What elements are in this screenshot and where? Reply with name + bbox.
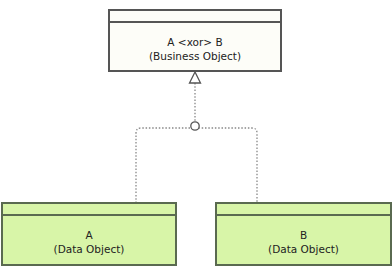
data-object-node-a[interactable]: A (Data Object)	[1, 202, 177, 266]
data-object-node-b[interactable]: B (Data Object)	[215, 202, 392, 266]
node-type: (Data Object)	[3, 242, 175, 256]
node-title: A	[3, 228, 175, 242]
node-label: A (Data Object)	[3, 216, 175, 256]
node-label: B (Data Object)	[217, 216, 390, 256]
node-header-band	[3, 204, 175, 216]
node-title: B	[217, 228, 390, 242]
junction-branches	[136, 128, 257, 203]
business-object-node[interactable]: A <xor> B (Business Object)	[108, 9, 282, 72]
node-label: A <xor> B (Business Object)	[110, 23, 280, 63]
node-type: (Business Object)	[110, 49, 280, 63]
node-header-band	[110, 11, 280, 23]
node-title: A <xor> B	[110, 35, 280, 49]
junction-circle-icon	[191, 122, 199, 130]
node-type: (Data Object)	[217, 242, 390, 256]
realization-arrowhead-icon	[190, 72, 201, 83]
node-header-band	[217, 204, 390, 216]
